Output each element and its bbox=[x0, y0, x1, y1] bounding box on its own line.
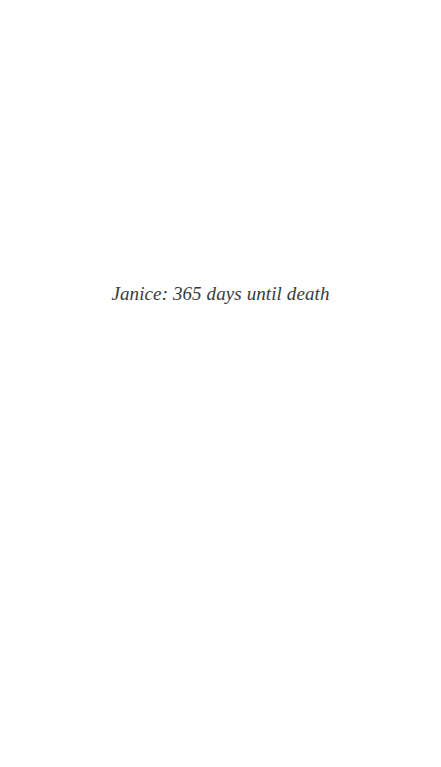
centered-text: Janice: 365 days until death bbox=[0, 283, 441, 305]
